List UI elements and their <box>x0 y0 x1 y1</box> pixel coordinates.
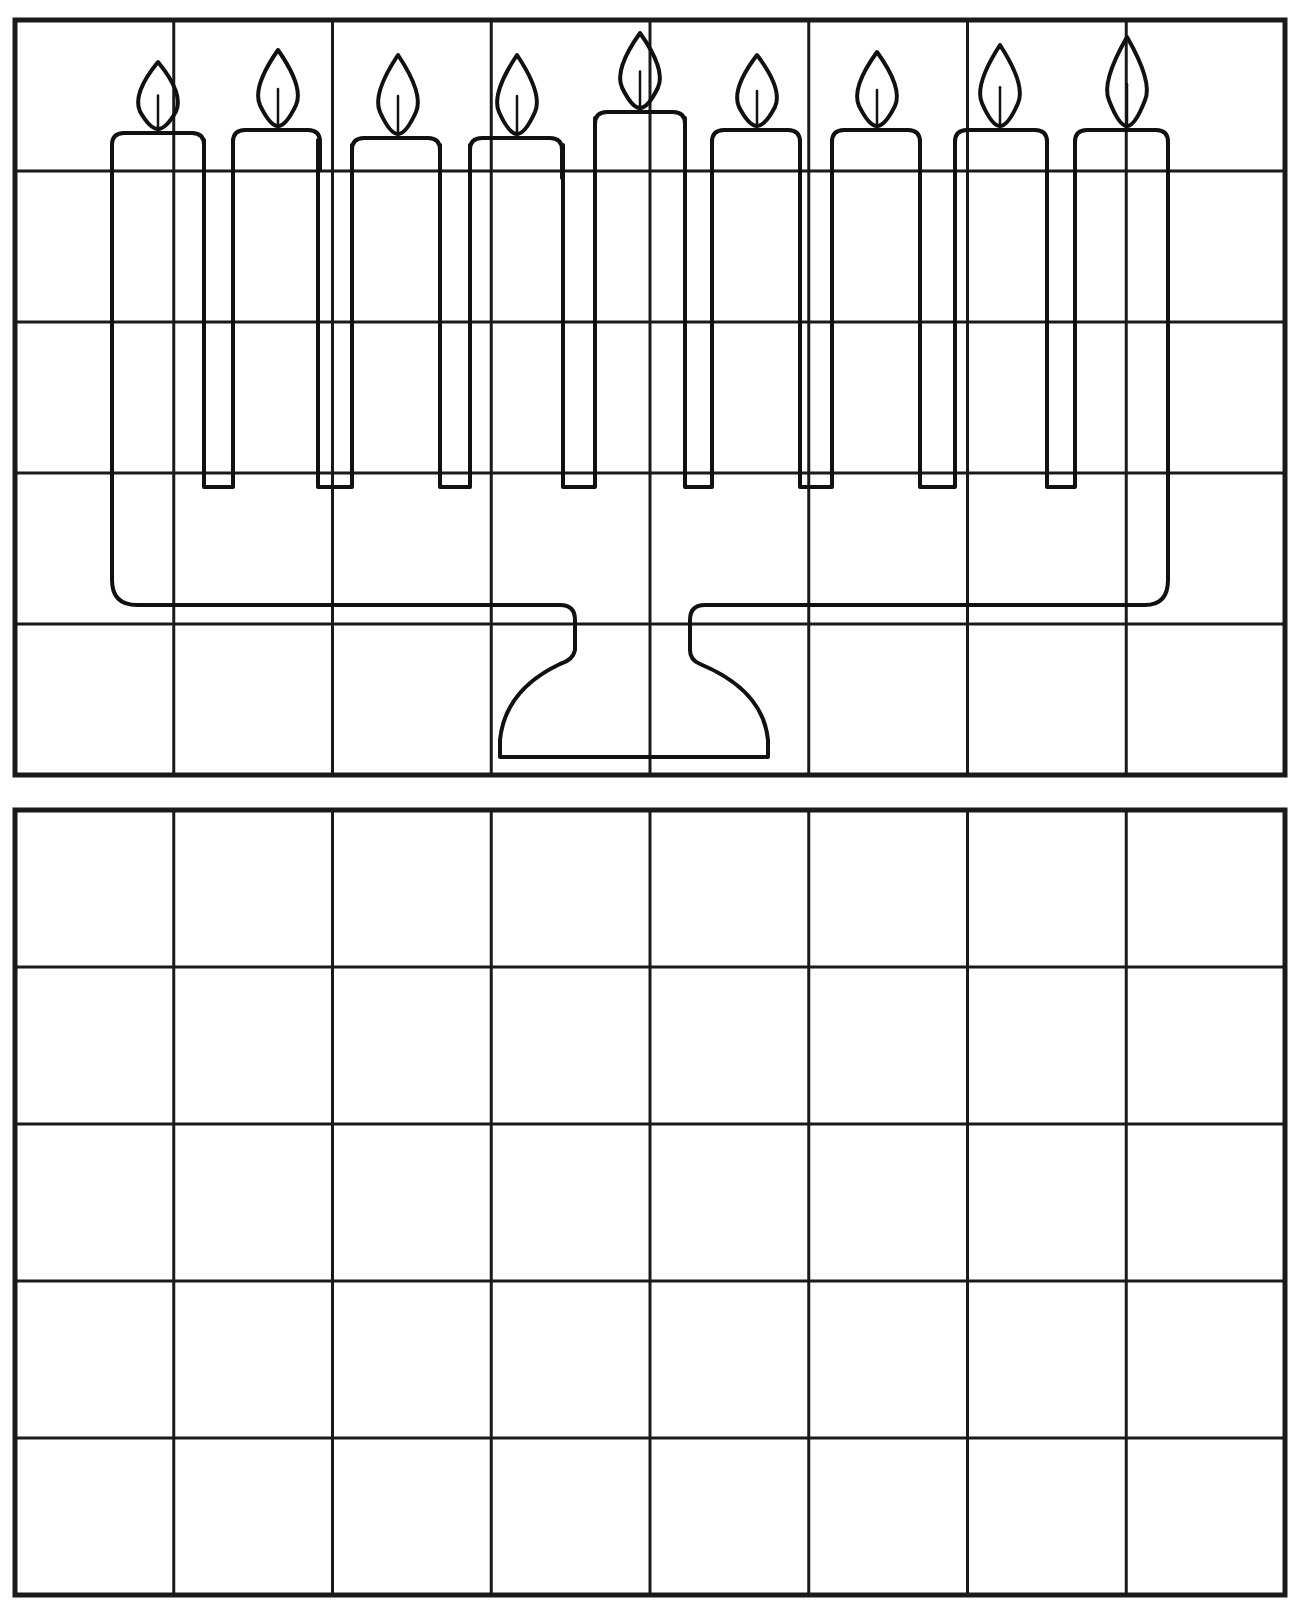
menorah-cup-6 <box>800 140 832 487</box>
candle-2-top <box>233 130 320 160</box>
candle-5-top <box>595 112 685 142</box>
candle-9-top <box>1075 130 1168 160</box>
worksheet-canvas <box>0 0 1300 1600</box>
practice-grid <box>15 810 1285 1595</box>
menorah-cup-1 <box>204 140 233 487</box>
menorah-drawing <box>112 33 1168 757</box>
menorah-cup-4 <box>563 118 595 487</box>
menorah-cup-3 <box>440 145 470 487</box>
flames <box>138 33 1147 138</box>
candle-1-top <box>112 133 204 163</box>
menorah-cup-2 <box>318 140 352 487</box>
menorah-cup-7 <box>920 140 955 487</box>
candle-6-top <box>712 130 800 160</box>
candle-4-top <box>470 138 562 168</box>
menorah-cup-5 <box>685 118 712 487</box>
candle-7-top <box>832 130 920 160</box>
menorah-body-outline <box>112 145 1168 757</box>
candle-3-top <box>352 138 440 168</box>
menorah-cup-8 <box>1047 140 1075 487</box>
